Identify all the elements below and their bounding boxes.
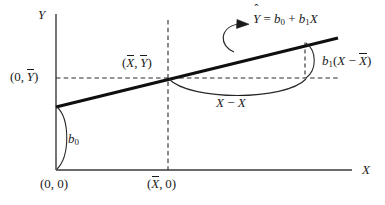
xbar-foot-coordinate-label: (X, 0) bbox=[147, 177, 176, 190]
x-bar-symbol: X bbox=[151, 177, 159, 190]
rise-brace bbox=[306, 43, 314, 78]
y-bar-symbol: Y bbox=[140, 56, 147, 69]
plus-sign: + bbox=[288, 11, 295, 26]
x-bar-symbol: X bbox=[238, 96, 246, 109]
paren-close: ) bbox=[172, 176, 176, 191]
b0-subscript: 0 bbox=[281, 17, 285, 27]
b1-symbol: b1 bbox=[299, 11, 310, 26]
regression-equation-label: Y = b0 + b1X bbox=[253, 12, 318, 27]
equals-sign: = bbox=[263, 11, 270, 26]
paren-close: ) bbox=[147, 55, 151, 70]
comma: , bbox=[159, 176, 162, 191]
zero-text: 0, bbox=[14, 69, 24, 84]
x-bar-symbol: X bbox=[126, 56, 134, 69]
y-axis-label: Y bbox=[38, 8, 45, 21]
b0-symbol: b0 bbox=[68, 131, 79, 146]
regression-line bbox=[56, 38, 338, 107]
paren-close: ) bbox=[367, 53, 371, 68]
paren-close: ) bbox=[34, 69, 38, 84]
x-bar-symbol: X bbox=[359, 54, 367, 67]
intercept-term-label: b0 bbox=[68, 132, 79, 147]
diagram-canvas bbox=[0, 0, 385, 205]
x-symbol: X bbox=[337, 53, 345, 68]
equation-arrow bbox=[223, 24, 238, 52]
regression-diagram: Y X (0, Y) (X, Y) (0, 0) (X, 0) Y = b0 +… bbox=[0, 0, 385, 205]
y-hat-symbol: Y bbox=[253, 12, 260, 25]
comma: , bbox=[134, 55, 137, 70]
x-symbol: X bbox=[216, 95, 224, 110]
origin-coordinate-label: (0, 0) bbox=[40, 177, 68, 190]
b0-symbol: b0 bbox=[274, 11, 285, 26]
b0-subscript: 0 bbox=[75, 137, 79, 147]
x-axis-label: X bbox=[362, 163, 370, 176]
equation-arrow-head bbox=[237, 20, 250, 29]
minus-sign: − bbox=[227, 95, 234, 110]
b1-symbol: b1 bbox=[322, 53, 333, 68]
run-term-label: X − X bbox=[216, 96, 246, 109]
x-symbol: X bbox=[310, 11, 318, 26]
intercept-brace bbox=[57, 107, 67, 169]
run-brace bbox=[169, 79, 306, 96]
rise-term-label: b1(X − X) bbox=[322, 54, 371, 69]
centroid-coordinate-label: (X, Y) bbox=[122, 56, 152, 69]
y-bar-symbol: Y bbox=[27, 70, 34, 83]
minus-sign: − bbox=[348, 53, 355, 68]
y-intercept-coordinate-label: (0, Y) bbox=[10, 70, 38, 83]
